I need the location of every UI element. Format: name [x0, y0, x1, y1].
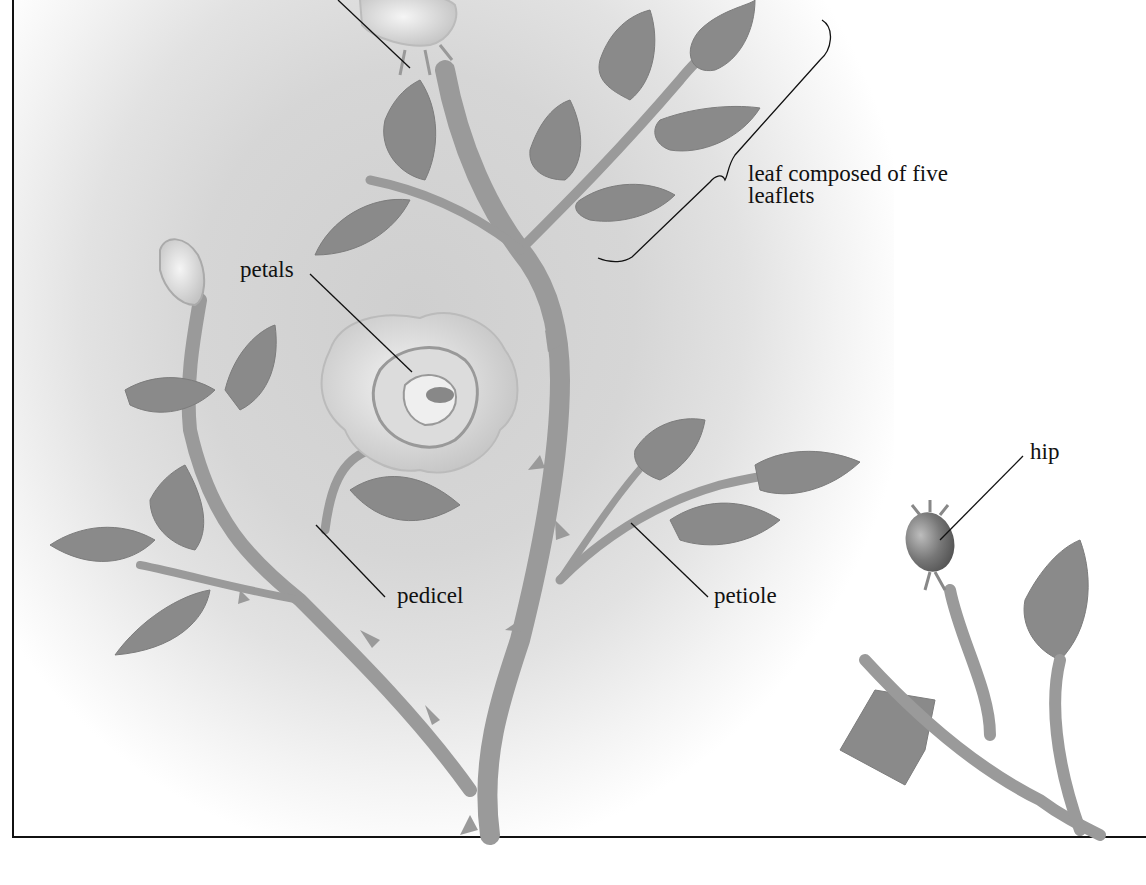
- rose-bud: [160, 239, 204, 305]
- leaflet: [576, 184, 675, 221]
- leaflet: [635, 419, 705, 480]
- pedicel-leader-line: [316, 525, 385, 597]
- leaflet: [125, 378, 215, 413]
- leaflet: [350, 476, 460, 520]
- leaflet: [225, 325, 276, 410]
- leaflet: [50, 527, 155, 561]
- label-leaf-composed-of-five-leaflets: leaf composed of five leaflets: [748, 163, 1008, 207]
- leaflet: [315, 199, 410, 255]
- label-petals: petals: [240, 259, 294, 281]
- label-pedicel: pedicel: [397, 585, 463, 607]
- leaflet: [690, 0, 755, 71]
- leaflet: [840, 690, 935, 785]
- leaflet: [530, 100, 581, 180]
- hip-leader-line: [940, 456, 1023, 540]
- hip-fruit: [899, 507, 961, 577]
- open-rose: [322, 313, 518, 472]
- leaflet: [1024, 540, 1088, 660]
- label-hip: hip: [1030, 441, 1059, 463]
- leaflet: [670, 503, 780, 545]
- leaflet: [755, 451, 860, 493]
- leaflet: [384, 80, 436, 180]
- leaflet: [115, 590, 210, 655]
- leaflet: [150, 465, 204, 550]
- label-petiole: petiole: [714, 585, 777, 607]
- leaflet: [599, 10, 655, 100]
